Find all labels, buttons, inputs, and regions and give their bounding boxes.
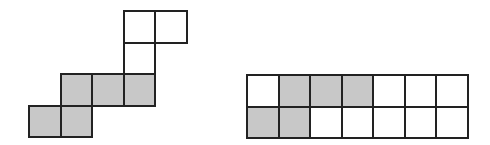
shaded-cell — [278, 106, 312, 140]
empty-cell — [123, 42, 157, 76]
shaded-cell — [91, 73, 125, 107]
empty-cell — [341, 106, 375, 140]
empty-cell — [404, 106, 438, 140]
empty-cell — [435, 74, 469, 108]
shaded-cell — [28, 105, 62, 139]
empty-cell — [372, 74, 406, 108]
shaded-cell — [309, 74, 343, 108]
shaded-cell — [278, 74, 312, 108]
empty-cell — [372, 106, 406, 140]
empty-cell — [154, 10, 188, 44]
empty-cell — [404, 74, 438, 108]
shaded-cell — [60, 105, 94, 139]
shaded-cell — [246, 106, 280, 140]
empty-cell — [309, 106, 343, 140]
empty-cell — [246, 74, 280, 108]
empty-cell — [123, 10, 157, 44]
shaded-cell — [341, 74, 375, 108]
shaded-cell — [60, 73, 94, 107]
empty-cell — [435, 106, 469, 140]
shaded-cell — [123, 73, 157, 107]
